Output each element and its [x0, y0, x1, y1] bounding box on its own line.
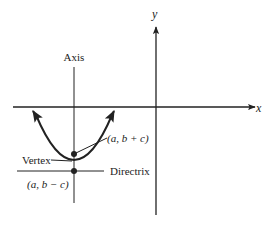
directrix-point	[71, 168, 77, 174]
parabola-left-arrow	[33, 111, 38, 119]
x-axis-label: x	[255, 101, 262, 115]
parabola-diagram: x y Axis Directrix (a, b + c) Vertex (a,…	[0, 0, 270, 226]
parabola-right-arrow	[110, 111, 114, 119]
directrix-label: Directrix	[110, 165, 150, 177]
directrix-point-label: (a, b − c)	[27, 178, 69, 191]
vertex-label: Vertex	[22, 154, 51, 166]
focus-point	[71, 151, 77, 157]
focus-label: (a, b + c)	[107, 132, 149, 145]
axis-label: Axis	[64, 51, 85, 63]
y-axis-label: y	[151, 7, 158, 21]
